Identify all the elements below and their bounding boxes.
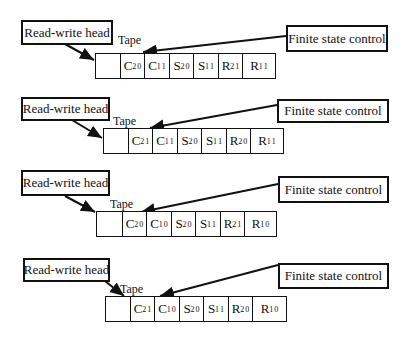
control-arrow-row-1 bbox=[143, 36, 286, 52]
read-write-head-label: Read-write head bbox=[24, 262, 110, 278]
finite-state-control-box-row-1: Finite state control bbox=[286, 25, 388, 52]
tape-cell: C10 bbox=[154, 296, 180, 322]
tape-cell: R11 bbox=[242, 53, 276, 79]
tape-cell: C11 bbox=[152, 128, 178, 154]
tape-cell: S11 bbox=[195, 211, 221, 237]
tape-cell: S20 bbox=[171, 211, 197, 237]
read-write-head-box-row-3: Read-write head bbox=[21, 170, 110, 196]
read-write-head-box-row-4: Read-write head bbox=[23, 258, 110, 282]
head-arrow-row-2 bbox=[72, 120, 102, 138]
tape-label-row-4: Tape bbox=[120, 282, 143, 297]
tape-cell: S11 bbox=[193, 53, 219, 79]
tape-cell: S11 bbox=[203, 296, 229, 322]
tape-cell: R21 bbox=[218, 53, 244, 79]
finite-state-control-label: Finite state control bbox=[288, 31, 385, 47]
control-arrow-row-2 bbox=[150, 105, 277, 128]
tape-cell: C21 bbox=[130, 296, 156, 322]
tape-cell: S20 bbox=[169, 53, 195, 79]
read-write-head-label: Read-write head bbox=[23, 101, 109, 117]
tape-cell-blank bbox=[95, 53, 121, 79]
tape-row-1: C20 C11 S20 S11 R21 R11 bbox=[95, 53, 276, 79]
read-write-head-box-row-1: Read-write head bbox=[21, 20, 113, 45]
tape-row-2: C21 C11 S20 S11 R20 R11 bbox=[103, 128, 284, 154]
tape-cell: S20 bbox=[177, 128, 203, 154]
tape-cell-blank bbox=[105, 296, 131, 322]
tape-cell: C20 bbox=[120, 53, 146, 79]
head-arrow-row-1 bbox=[65, 44, 94, 60]
tape-cell: S11 bbox=[201, 128, 227, 154]
tape-cell-blank bbox=[96, 211, 123, 237]
finite-state-control-label: Finite state control bbox=[284, 103, 381, 119]
finite-state-control-box-row-2: Finite state control bbox=[277, 99, 389, 123]
tape-cell: R10 bbox=[244, 211, 277, 237]
finite-state-control-label: Finite state control bbox=[285, 268, 382, 284]
tape-cell: R20 bbox=[228, 296, 254, 322]
control-arrow-row-3 bbox=[141, 184, 278, 212]
read-write-head-box-row-2: Read-write head bbox=[21, 97, 110, 121]
tape-cell: R20 bbox=[226, 128, 252, 154]
tape-label-row-2: Tape bbox=[113, 114, 136, 129]
tape-label-row-1: Tape bbox=[118, 33, 141, 48]
tape-row-3: C20 C10 S20 S11 R21 R10 bbox=[96, 211, 277, 237]
tape-cell: R21 bbox=[220, 211, 246, 237]
tape-cell: R11 bbox=[250, 128, 284, 154]
tape-row-4: C21 C10 S20 S11 R20 R10 bbox=[105, 296, 287, 322]
tape-cell-blank bbox=[103, 128, 129, 154]
tape-cell: C21 bbox=[128, 128, 154, 154]
head-arrow-row-3 bbox=[65, 196, 95, 212]
read-write-head-label: Read-write head bbox=[23, 175, 109, 191]
tape-cell: S20 bbox=[179, 296, 205, 322]
tape-label-row-3: Tape bbox=[110, 197, 133, 212]
tape-cell: R10 bbox=[252, 296, 287, 322]
finite-state-control-box-row-4: Finite state control bbox=[278, 263, 389, 289]
tape-cell: C20 bbox=[122, 211, 148, 237]
finite-state-control-label: Finite state control bbox=[285, 182, 382, 198]
finite-state-control-box-row-3: Finite state control bbox=[278, 176, 389, 203]
tape-cell: C11 bbox=[144, 53, 170, 79]
tape-cell: C10 bbox=[146, 211, 172, 237]
control-arrow-row-4 bbox=[160, 265, 278, 296]
read-write-head-label: Read-write head bbox=[24, 25, 110, 41]
